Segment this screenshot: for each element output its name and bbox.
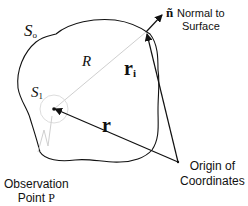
vector-r-label: r [102,115,111,135]
vector-ri [147,34,178,162]
observation-point-dot [52,107,56,111]
radius-label: R [82,54,91,69]
origin-label: Origin of Coordinates [180,159,245,189]
normal-vector [146,15,162,32]
vector-ri-label: ri [124,58,136,79]
origin-dot [177,161,179,163]
observation-point-symbol: P [48,191,55,205]
surface-inner-label: S1 [31,85,43,101]
observation-label: Observation Point P [4,177,69,205]
observation-leader [38,116,52,152]
surface-outer-label: So [24,22,37,40]
normal-label: Normal to Surface [177,7,225,33]
vector-r [55,109,178,162]
normal-symbol: ñ [166,6,173,19]
